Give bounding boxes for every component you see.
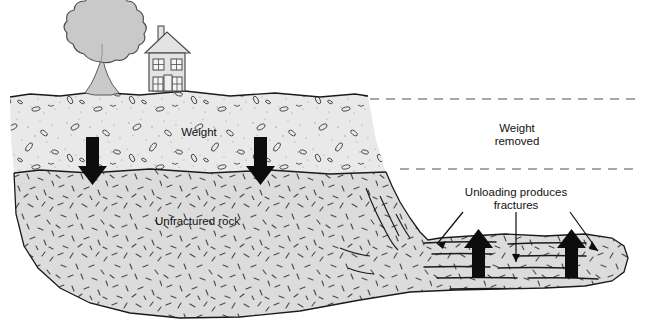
weight-removed-label-line1: Weight xyxy=(499,122,535,134)
diagram-canvas: Weight Unfractured rock Weight removed U… xyxy=(0,0,645,322)
weight-label: Weight xyxy=(181,126,217,138)
unloading-label-line2: fractures xyxy=(494,199,539,211)
tree xyxy=(64,0,146,95)
house-door xyxy=(164,75,172,91)
unfractured-rock-label: Unfractured rock xyxy=(155,215,240,227)
unloading-label-line1: Unloading produces xyxy=(465,186,568,198)
geology-diagram: Weight Unfractured rock Weight removed U… xyxy=(0,0,645,322)
weight-removed-label-line2: removed xyxy=(495,135,540,147)
house-roof xyxy=(145,32,190,53)
house xyxy=(145,26,190,91)
tree-trunk xyxy=(85,60,119,95)
tree-canopy xyxy=(64,0,146,63)
